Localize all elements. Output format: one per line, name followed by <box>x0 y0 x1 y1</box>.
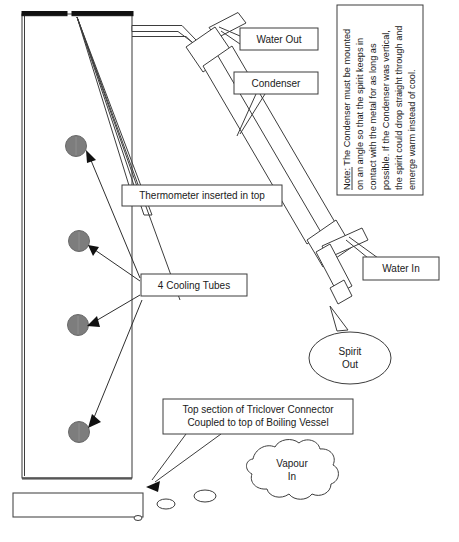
triclover-label-line2: Coupled to top of Boiling Vessel <box>187 417 328 428</box>
spirit-out-line2: Out <box>342 359 358 370</box>
head-connector-pipe <box>132 26 196 46</box>
vapour-in-line2: In <box>288 471 296 482</box>
callout-water-out[interactable]: Water Out <box>219 27 318 50</box>
note-line-6: emerge warm instead of cool. <box>407 69 417 190</box>
water-out-label: Water Out <box>256 34 301 45</box>
bottom-flange <box>13 493 143 517</box>
small-bubble-1 <box>157 499 175 509</box>
top-flange-right <box>72 12 133 16</box>
vapour-in-cloud[interactable] <box>246 440 338 500</box>
thermometer-label: Thermometer inserted in top <box>139 190 265 201</box>
triclover-label-line1: Top section of Triclover Connector <box>182 404 334 415</box>
note-line-2: on an angle so that the spirit keeps in <box>355 38 365 190</box>
vapour-in-line1: Vapour <box>276 458 308 469</box>
small-bubble-3 <box>134 516 142 521</box>
note-line-1: Note: The Condenser must be mounted <box>342 29 352 190</box>
note-box-group[interactable]: Note: The Condenser must be mounted on a… <box>337 5 423 195</box>
condenser-assembly <box>132 13 368 305</box>
spirit-out-line1: Spirit <box>339 346 362 357</box>
cooling-tubes-label: 4 Cooling Tubes <box>158 280 230 291</box>
diagram-canvas: Water Out Condenser Thermometer inserted… <box>0 0 459 542</box>
callout-thermometer[interactable]: Thermometer inserted in top <box>122 185 282 206</box>
bubble-spirit-out[interactable]: Spirit Out <box>309 306 391 384</box>
spirit-out-ellipse[interactable] <box>309 332 391 384</box>
note-line-4: possible. If the Condenser was vertical, <box>381 30 391 190</box>
vapour-bubbles-group <box>134 490 216 521</box>
triclover-arrow-head <box>146 481 160 492</box>
top-flange-left <box>22 12 67 16</box>
condenser-label: Condenser <box>252 78 302 89</box>
still-diagram: Water Out Condenser Thermometer inserted… <box>0 0 459 542</box>
note-line-3: contact with the metal for as long as <box>368 43 378 190</box>
triclover-leader <box>152 434 221 482</box>
water-in-label: Water In <box>382 263 419 274</box>
callout-cooling-tubes[interactable]: 4 Cooling Tubes <box>141 274 247 296</box>
bubble-vapour-in[interactable]: Vapour In <box>246 440 338 500</box>
spirit-out-tail <box>330 306 348 331</box>
note-line-5: the spirit could drop straight through a… <box>394 26 404 190</box>
small-bubble-2 <box>194 490 216 502</box>
